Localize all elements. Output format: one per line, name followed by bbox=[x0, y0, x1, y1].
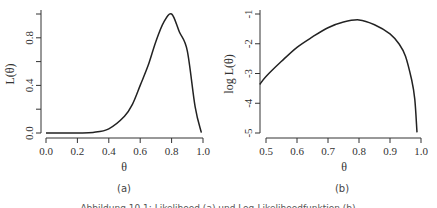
figure-caption: Abbildung 10.1: Likelihood (a) und Log-L… bbox=[80, 203, 355, 208]
y-tick-label: -2 bbox=[242, 39, 254, 48]
panel-label-b: (b) bbox=[335, 183, 349, 194]
x-tick-label: 0.9 bbox=[383, 145, 397, 157]
x-tick-label: 0.6 bbox=[290, 145, 304, 157]
x-tick-label: 0.2 bbox=[71, 145, 85, 157]
y-tick-label: -3 bbox=[242, 68, 254, 78]
x-ticks-a: 0.00.20.40.60.81.0 bbox=[39, 138, 210, 157]
panel-label-a: (a) bbox=[117, 183, 131, 194]
x-axis-label-a: θ bbox=[121, 160, 127, 174]
likelihood-curve bbox=[46, 14, 201, 133]
y-tick-label: 0.8 bbox=[23, 30, 35, 44]
y-tick-label: -4 bbox=[242, 98, 254, 108]
x-ticks-b: 0.50.60.70.80.91.0 bbox=[259, 138, 428, 157]
x-axis-label-b: θ bbox=[341, 160, 347, 174]
x-tick-label: 1.0 bbox=[196, 145, 210, 157]
x-tick-label: 0.8 bbox=[352, 145, 366, 157]
y-tick-label: 0.0 bbox=[23, 126, 35, 140]
y-tick-label: -5 bbox=[242, 128, 254, 138]
y-ticks-b: -1-2-3-4-5 bbox=[242, 9, 260, 137]
x-tick-label: 0.0 bbox=[39, 145, 53, 157]
x-tick-label: 0.7 bbox=[321, 145, 335, 157]
x-tick-label: 1.0 bbox=[414, 145, 428, 157]
log-likelihood-curve bbox=[260, 20, 417, 133]
x-tick-label: 0.8 bbox=[165, 145, 179, 157]
x-tick-label: 0.4 bbox=[102, 145, 116, 157]
y-ticks-a: 0.00.40.8 bbox=[23, 14, 41, 140]
y-tick-label: -1 bbox=[242, 9, 254, 18]
chart-b: -1-2-3-4-5 0.50.60.70.80.91.0 log L(θ) θ… bbox=[222, 9, 428, 194]
y-axis-label-a: L(θ) bbox=[3, 63, 17, 84]
figure: 0.00.40.8 0.00.20.40.60.81.0 L(θ) θ (a) … bbox=[0, 0, 437, 208]
x-tick-label: 0.5 bbox=[259, 145, 273, 157]
y-tick-label: 0.4 bbox=[23, 78, 35, 92]
y-axis-label-b: log L(θ) bbox=[222, 54, 236, 93]
chart-a: 0.00.40.8 0.00.20.40.60.81.0 L(θ) θ (a) bbox=[3, 10, 210, 194]
x-tick-label: 0.6 bbox=[133, 145, 147, 157]
